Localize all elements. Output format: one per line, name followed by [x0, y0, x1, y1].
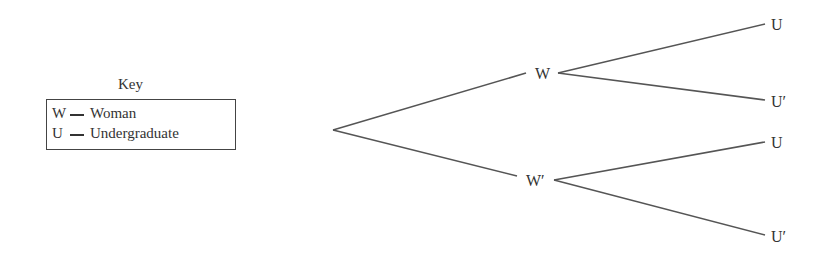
node-w: W	[535, 65, 551, 82]
node-w-u: U	[771, 16, 783, 33]
branch-w-u	[558, 24, 765, 73]
branch-wprime-uprime	[554, 180, 765, 235]
node-wprime: W′	[526, 172, 545, 189]
node-w-uprime: U′	[771, 93, 786, 110]
branch-w-uprime	[558, 73, 765, 100]
branch-wprime-u	[554, 142, 765, 180]
node-wprime-u: U	[771, 134, 783, 151]
tree-diagram: W W′ U U′ U U′	[0, 0, 826, 259]
node-wprime-uprime: U′	[771, 228, 786, 245]
branch-root-w	[333, 73, 526, 130]
branch-root-wprime	[333, 130, 517, 176]
